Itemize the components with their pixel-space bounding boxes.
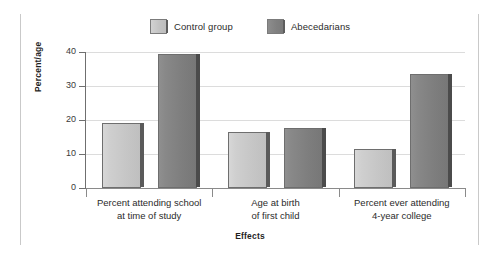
y-tick-label-30: 30 [50,80,76,90]
y-tick-mark-20 [79,120,85,121]
x-axis-title: Effects [0,231,500,241]
gridline-0 [86,188,465,189]
y-axis-title: Percent/age [33,42,43,92]
y-tick-label-40: 40 [50,46,76,56]
bar-control-group-group-1 [102,123,141,188]
y-tick-mark-30 [79,86,85,87]
y-tick-label-20: 20 [50,114,76,124]
category-label-2: Age at birth of first child [203,197,347,222]
bar-abecedarians-group-2 [284,128,323,188]
y-tick-mark-10 [79,154,85,155]
gridline-30 [86,86,465,87]
y-tick-label-10: 10 [50,148,76,158]
bar-abecedarians-group-3 [410,74,449,188]
plot-wrapper: Percent/age 010203040 Percent attending … [0,0,500,259]
x-group-separator-2 [339,188,340,197]
bar-chart-figure: Control group Abecedarians Percent/age 0… [0,0,500,259]
gridline-20 [86,120,465,121]
bar-control-group-group-3 [354,149,393,188]
y-tick-mark-0 [79,188,85,189]
gridline-40 [86,52,465,53]
y-tick-label-0: 0 [50,182,76,192]
bar-control-group-group-2 [228,132,267,188]
category-label-1: Percent attending school at time of stud… [77,197,221,222]
plot-area [86,52,465,188]
x-group-separator-1 [212,188,213,197]
y-tick-mark-40 [79,52,85,53]
bar-abecedarians-group-1 [158,54,197,188]
x-axis-end-tick-right [465,188,466,197]
x-axis-end-tick-left [86,188,87,197]
category-label-3: Percent ever attending 4-year college [330,197,474,222]
